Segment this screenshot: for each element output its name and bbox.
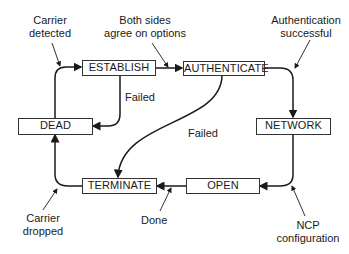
label-failed-authenticate: Failed (188, 127, 218, 140)
label-both-sides-agree: Both sides agree on options (100, 14, 190, 40)
label-ncp-configuration: NCP configuration (270, 219, 346, 245)
label-carrier-dropped: Carrier dropped (16, 212, 70, 238)
state-authenticate: AUTHENTICATE (183, 61, 265, 76)
arrow-terminate-to-dead (55, 135, 82, 186)
label-done: Done (141, 214, 167, 227)
arrow-establish-to-dead (93, 75, 120, 126)
state-terminate: TERMINATE (82, 178, 157, 194)
state-dead: DEAD (18, 118, 93, 135)
state-open: OPEN (186, 178, 260, 194)
pointer-done (160, 188, 171, 211)
label-authentication-successful: Authentication successful (266, 14, 346, 40)
pointer-carrier-dropped (43, 189, 57, 210)
label-failed-establish: Failed (125, 91, 155, 104)
arrow-network-to-open (260, 134, 293, 186)
arrow-authenticate-to-network (264, 68, 293, 117)
pointer-auth-successful (295, 40, 310, 68)
state-network: NETWORK (256, 118, 331, 135)
pointer-ncp-configuration (292, 186, 305, 216)
arrow-dead-to-establish (55, 67, 81, 118)
label-carrier-detected: Carrier detected (18, 14, 82, 40)
state-establish: ESTABLISH (82, 60, 156, 76)
pointer-carrier-detected (52, 43, 60, 66)
